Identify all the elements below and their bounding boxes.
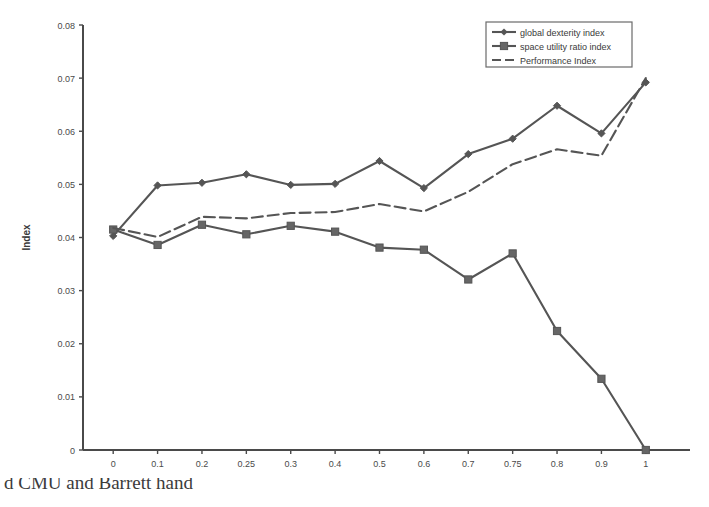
- chart-legend: global dexterity indexspace utility rati…: [486, 22, 632, 67]
- legend-entry-label: space utility ratio index: [520, 42, 612, 52]
- y-axis-title: Index: [21, 224, 32, 251]
- legend-marker-square: [500, 42, 507, 49]
- x-axis-tick-label: 0.7: [462, 459, 475, 469]
- x-axis-tick-label: 0: [111, 459, 116, 469]
- data-point-marker: [243, 231, 250, 238]
- data-point-marker: [420, 246, 427, 253]
- y-axis-tick-label: 0.02: [57, 339, 75, 349]
- chart-figure: 00.010.020.030.040.050.060.070.0800.10.2…: [0, 0, 709, 507]
- x-axis-tick-label: 0.6: [418, 459, 431, 469]
- page-caption-strip: d CMU and Barrett hand: [0, 478, 709, 507]
- x-axis-tick-label: 0.75: [504, 459, 522, 469]
- data-point-marker: [376, 244, 383, 251]
- y-axis-tick-label: 0.01: [57, 392, 75, 402]
- y-axis-tick-label: 0.07: [57, 74, 75, 84]
- data-point-marker: [287, 181, 294, 188]
- x-axis-tick-label: 0.25: [238, 459, 256, 469]
- x-axis-tick-label: 0.5: [373, 459, 386, 469]
- legend-entry-label: global dexterity index: [520, 28, 605, 38]
- x-axis-tick-label: 1: [643, 459, 648, 469]
- data-point-marker: [465, 276, 472, 283]
- series-line-1: [113, 225, 646, 450]
- data-point-marker: [198, 221, 205, 228]
- x-axis-tick-label: 0.3: [284, 459, 297, 469]
- y-axis-tick-label: 0.08: [57, 21, 75, 31]
- x-axis-tick-label: 0.9: [595, 459, 608, 469]
- y-axis-tick-label: 0.04: [57, 233, 75, 243]
- caption-text: d CMU and Barrett hand: [4, 478, 193, 494]
- data-point-marker: [154, 241, 161, 248]
- x-axis-tick-label: 0.4: [329, 459, 342, 469]
- y-axis-tick-label: 0.03: [57, 286, 75, 296]
- data-point-marker: [243, 171, 250, 178]
- y-axis-tick-label: 0.05: [57, 180, 75, 190]
- data-point-marker: [553, 327, 560, 334]
- data-point-marker: [287, 222, 294, 229]
- data-point-marker: [642, 446, 649, 453]
- data-point-marker: [509, 250, 516, 257]
- data-point-marker: [332, 228, 339, 235]
- x-axis-tick-label: 0.1: [151, 459, 164, 469]
- series-0: [110, 79, 650, 240]
- legend-entry-label: Performance Index: [520, 56, 597, 66]
- y-axis-tick-label: 0.06: [57, 127, 75, 137]
- data-point-marker: [332, 180, 339, 187]
- y-axis-tick-label: 0: [70, 446, 75, 456]
- line-chart: 00.010.020.030.040.050.060.070.0800.10.2…: [0, 0, 709, 480]
- series-1: [110, 221, 650, 453]
- x-axis-tick-label: 0.2: [196, 459, 209, 469]
- x-axis-tick-label: 0.8: [551, 459, 564, 469]
- data-point-marker: [198, 179, 205, 186]
- data-point-marker: [598, 375, 605, 382]
